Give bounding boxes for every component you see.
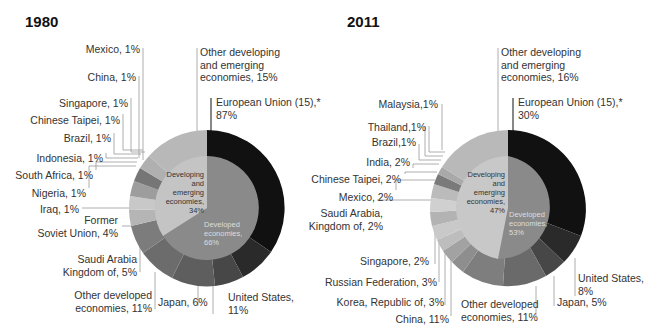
chart-1980: 1980 [0, 0, 333, 330]
inner-label-developing-2011: Developingandemergingeconomies,47% [455, 170, 505, 215]
label-united-states-2011: United States,8% [578, 272, 644, 297]
inner-label-developed-1980: Developedeconomies,66% [204, 220, 242, 247]
label-chinese-taipei-2011: Chinese Taipei, 2% [311, 173, 401, 186]
label-japan: Japan, 6% [158, 296, 208, 309]
label-other-developing: Other developingand emergingeconomies, 1… [200, 46, 280, 84]
label-saudi-arabia-2011: Saudi Arabia,Kingdom of, 2% [309, 207, 383, 232]
label-japan-2011: Japan, 5% [557, 296, 607, 309]
label-brazil-2011: Brazil,1% [372, 136, 416, 149]
inner-label-developed-2011: Developedeconomies,53% [509, 210, 547, 237]
label-mexico-2011: Mexico, 2% [339, 191, 393, 204]
label-korea: Korea, Republic of, 3% [337, 296, 444, 309]
label-other-developed-2011: Other developedeconomies, 11% [461, 298, 539, 323]
label-european-union-2011: European Union (15),*30% [518, 96, 622, 121]
label-india: India, 2% [366, 156, 410, 169]
label-mexico: Mexico, 1% [86, 43, 140, 56]
label-singapore: Singapore, 1% [59, 97, 128, 110]
label-china-2011: China, 11% [395, 313, 449, 326]
label-south-africa: South Africa, 1% [15, 169, 93, 182]
label-united-states: United States,11% [228, 291, 294, 316]
label-malaysia: Malaysia,1% [378, 98, 438, 111]
label-european-union: European Union (15),*87% [216, 96, 320, 121]
label-russian-federation: Russian Federation, 3% [325, 276, 437, 289]
label-brazil: Brazil, 1% [64, 132, 111, 145]
donut-chart-1980 [0, 0, 333, 330]
label-nigeria: Nigeria, 1% [32, 187, 86, 200]
label-china: China, 1% [88, 71, 136, 84]
label-indonesia: Indonesia, 1% [36, 152, 103, 165]
label-chinese-taipei: Chinese Taipei, 1% [30, 114, 120, 127]
label-former-soviet-union: FormerSoviet Union, 4% [37, 214, 118, 239]
label-other-developed: Other developedeconomies, 11% [74, 289, 152, 314]
label-saudi-arabia: Saudi ArabiaKingdom of, 5% [63, 253, 137, 278]
label-thailand: Thailand,1% [368, 121, 426, 134]
chart-2011: 2011 [333, 0, 666, 330]
label-other-developing-2011: Other developingand emergingeconomies, 1… [501, 46, 581, 84]
inner-label-developing-1980: Developingandemergingeconomies,34% [162, 170, 204, 215]
label-singapore-2011: Singapore, 2% [360, 255, 429, 268]
